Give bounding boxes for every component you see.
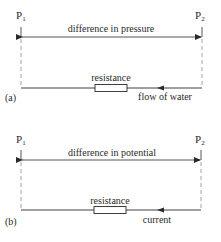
resistor-b <box>94 207 126 214</box>
panel-b: P1 P2 difference in potential resistance… <box>5 133 205 228</box>
flow-arrow-icon-a <box>157 86 164 91</box>
analogy-diagram: P1 P2 difference in pressure resistance … <box>0 0 221 242</box>
panel-tag-b: (b) <box>5 216 17 228</box>
flow-label-a: flow of water <box>138 91 193 102</box>
p1-label: P1 <box>16 9 26 23</box>
span-label-a: difference in pressure <box>68 23 155 34</box>
panel-tag-a: (a) <box>5 92 16 104</box>
panel-a: P1 P2 difference in pressure resistance … <box>5 9 205 104</box>
p1-label-b: P1 <box>16 133 26 147</box>
current-arrow-icon-b <box>157 208 164 213</box>
span-label-b: difference in potential <box>68 147 156 158</box>
p2-label: P2 <box>195 9 205 23</box>
resistor-label-b: resistance <box>90 195 130 206</box>
p2-label-b: P2 <box>195 133 205 147</box>
resistor-label-a: resistance <box>91 72 131 83</box>
flow-label-b: current <box>143 214 172 225</box>
resistor-a <box>95 85 127 92</box>
